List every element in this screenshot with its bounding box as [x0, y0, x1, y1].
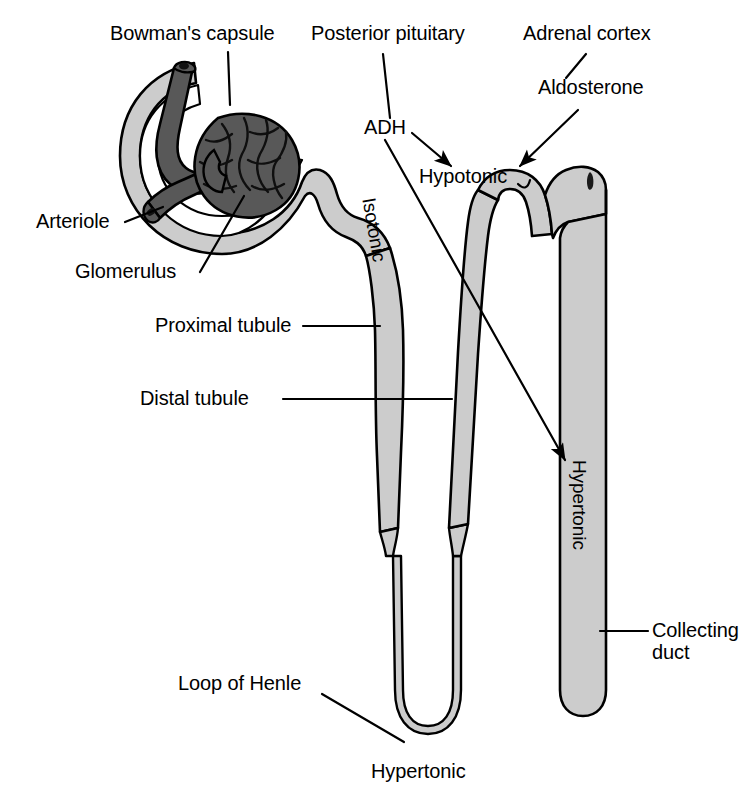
label-distal-tubule: Distal tubule: [140, 387, 249, 409]
label-hypertonic-vertical: Hypertonic: [569, 460, 590, 550]
leader-loop-of-henle: [322, 694, 404, 742]
label-collecting-duct-line2: duct: [652, 641, 689, 663]
label-arteriole: Arteriole: [36, 210, 110, 232]
label-adh: ADH: [364, 116, 406, 138]
label-loop-of-henle: Loop of Henle: [178, 672, 301, 694]
distal-tubule-shape: [449, 524, 468, 556]
proximal-tubule-shape: [366, 248, 403, 532]
distal-tubule-ascending-shape: [449, 190, 498, 528]
label-collecting-duct: Collecting duct: [652, 619, 743, 664]
label-posterior-pituitary: Posterior pituitary: [311, 22, 465, 44]
arrow-aldosterone-to-distal-tubule: [520, 110, 578, 166]
label-aldosterone: Aldosterone: [538, 76, 644, 98]
label-glomerulus: Glomerulus: [75, 260, 176, 282]
collecting-duct-shape: [560, 190, 606, 716]
label-proximal-tubule: Proximal tubule: [155, 314, 291, 336]
proximal-to-thin-transition: [380, 528, 398, 556]
label-hypertonic-loop: Hypertonic: [371, 760, 466, 782]
label-adrenal-cortex: Adrenal cortex: [523, 22, 651, 44]
leader-adrenal-cortex: [566, 54, 586, 78]
label-hypotonic: Hypotonic: [419, 165, 507, 187]
arrow-adh-to-distal-tubule: [412, 133, 451, 166]
leader-posterior-pituitary: [383, 54, 390, 118]
label-collecting-duct-line1: Collecting: [652, 619, 739, 641]
leader-bowmans-capsule: [228, 52, 230, 105]
loop-of-henle-shape: [393, 556, 461, 734]
label-bowmans-capsule: Bowman's capsule: [110, 22, 275, 44]
afferent-arteriole-lumen: [179, 63, 189, 70]
